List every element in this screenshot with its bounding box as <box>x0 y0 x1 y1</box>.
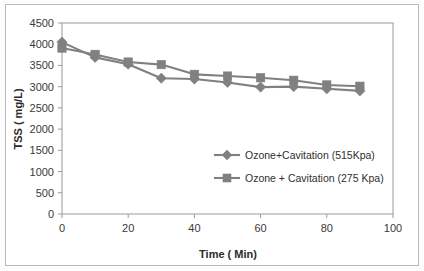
legend-item-1: Ozone+Cavitation (515Kpa) <box>214 149 375 161</box>
data-point-square <box>256 74 264 82</box>
data-point-square <box>157 60 165 68</box>
chart-legend: Ozone+Cavitation (515Kpa)Ozone + Cavitat… <box>214 149 384 184</box>
legend-label: Ozone+Cavitation (515Kpa) <box>245 149 375 161</box>
y-tick-label: 4500 <box>30 17 54 29</box>
data-point-square <box>356 82 364 90</box>
data-point-square <box>58 44 66 52</box>
data-point-square <box>223 72 231 80</box>
x-tick-label: 100 <box>384 222 402 234</box>
x-tick-label: 80 <box>321 222 333 234</box>
plot-area-frame <box>62 23 393 214</box>
data-point-square <box>290 76 298 84</box>
x-tick-label: 60 <box>254 222 266 234</box>
data-point-diamond <box>255 82 265 92</box>
y-tick-label: 1000 <box>30 166 54 178</box>
data-point-square <box>190 70 198 78</box>
y-tick-label: 4000 <box>30 38 54 50</box>
y-tick-label: 2000 <box>30 123 54 135</box>
data-point-square <box>323 81 331 89</box>
x-tick-label: 20 <box>122 222 134 234</box>
data-series-layer <box>57 37 365 96</box>
legend-label: Ozone + Cavitation (275 Kpa) <box>245 172 384 184</box>
legend-item-2: Ozone + Cavitation (275 Kpa) <box>214 172 384 184</box>
line-chart: 050010001500200025003000350040004500 020… <box>0 0 424 271</box>
x-tick-label: 0 <box>59 222 65 234</box>
y-tick-label: 0 <box>48 208 54 220</box>
x-tick-label: 40 <box>188 222 200 234</box>
data-point-square <box>91 50 99 58</box>
series-1 <box>57 37 365 96</box>
y-tick-label: 500 <box>36 187 54 199</box>
data-point-square <box>124 58 132 66</box>
series-2 <box>58 44 364 91</box>
y-tick-label: 3500 <box>30 59 54 71</box>
figure-container: 050010001500200025003000350040004500 020… <box>0 0 424 271</box>
y-tick-label: 3000 <box>30 81 54 93</box>
data-point-diamond <box>156 73 166 83</box>
y-axis-tick-labels: 050010001500200025003000350040004500 <box>30 17 54 220</box>
data-point-square <box>223 174 231 182</box>
y-tick-label: 2500 <box>30 102 54 114</box>
y-tick-label: 1500 <box>30 144 54 156</box>
x-axis-ticks <box>62 214 393 218</box>
x-axis-title: Time ( Min) <box>199 248 257 260</box>
x-axis-tick-labels: 020406080100 <box>59 222 402 234</box>
data-point-diamond <box>222 150 232 160</box>
y-axis-title: TSS ( mg/L) <box>12 88 24 149</box>
